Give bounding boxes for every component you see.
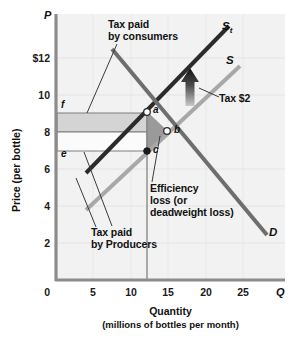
y-tick-10: 10: [8, 89, 50, 101]
demand-label: D: [269, 226, 277, 239]
x-tick-10: 10: [124, 286, 138, 298]
supply-with-tax-label-text: S: [222, 20, 230, 32]
tax-incidence-figure: P Q $12 10 8 6 4 2 0 5 10 15 20 25 Price…: [0, 0, 293, 344]
point-b-label: b: [174, 124, 180, 136]
y-tick-0: 0: [8, 286, 50, 298]
annotation-tax-paid-by-producers: Tax paid by Producers: [91, 226, 157, 250]
point-e-label: e: [61, 148, 67, 160]
point-c-label: c: [153, 144, 159, 156]
x-axis-symbol: Q: [276, 286, 285, 299]
point-b-marker: [164, 128, 171, 135]
supply-with-tax-label: St: [222, 20, 232, 35]
y-axis-title: Price (per bottle): [10, 129, 22, 212]
supply-label: S: [226, 54, 234, 67]
point-c-marker: [144, 148, 151, 155]
x-axis-subtitle: (millions of bottles per month): [46, 320, 293, 331]
x-axis-title: Quantity: [56, 305, 285, 317]
x-tick-15: 15: [161, 286, 175, 298]
y-tick-2: 2: [8, 237, 50, 249]
y-tick-12: $12: [8, 52, 50, 64]
point-f-label: f: [61, 99, 64, 111]
supply-with-tax-label-subscript: t: [230, 26, 233, 35]
region-tax-paid-by-producers: [57, 132, 147, 151]
y-axis-symbol: P: [44, 9, 51, 22]
point-a-label: a: [153, 104, 159, 116]
annotation-tax-paid-by-consumers: Tax paid by consumers: [108, 18, 178, 42]
x-tick-5: 5: [86, 286, 100, 298]
annotation-deadweight-loss: Efficiency loss (or deadweight loss): [150, 182, 234, 218]
annotation-tax-amount: Tax $2: [219, 92, 250, 104]
x-tick-25: 25: [236, 286, 250, 298]
x-tick-20: 20: [199, 286, 213, 298]
point-a-marker: [144, 109, 151, 116]
